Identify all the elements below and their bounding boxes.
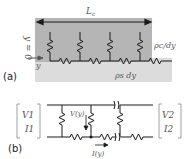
- origin-label: y = 0: [23, 35, 33, 60]
- transmission-line-diagram: Lc y = 0 y ρc/dy ρs dy (a) V1 I1 V2 I2: [0, 0, 193, 159]
- voltage-label: V(y): [70, 110, 85, 118]
- panel-b-label: (b): [8, 143, 22, 154]
- panel-a-label: (a): [3, 71, 17, 82]
- y-axis-label: y: [35, 61, 41, 70]
- right-port-voltage: V2: [162, 110, 174, 120]
- right-port-current: I2: [163, 124, 174, 134]
- left-port-current: I1: [24, 124, 34, 134]
- left-port-voltage: V1: [22, 110, 34, 120]
- length-label: Lc: [85, 6, 96, 17]
- sheet-resistance-label: ρs dy: [114, 71, 136, 80]
- equivalent-circuit: [47, 101, 153, 141]
- contact-resistance-label: ρc/dy: [153, 41, 176, 50]
- node: [90, 136, 93, 139]
- current-label: I(y): [91, 150, 104, 158]
- current-arrow: [95, 143, 108, 147]
- contact-region: [35, 18, 152, 62]
